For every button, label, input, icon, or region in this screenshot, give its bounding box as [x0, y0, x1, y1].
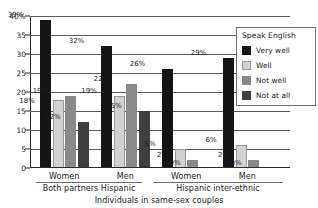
- legend-item-not-at-all[interactable]: Not at all: [242, 88, 311, 103]
- legend-label-well: Well: [256, 61, 272, 70]
- bar-value-label: 29%: [191, 49, 206, 57]
- bar-not-well[interactable]: [65, 96, 76, 168]
- group-label-left: Both partners Hispanic: [43, 184, 136, 193]
- legend-swatch-icon-not-at-all: [242, 91, 251, 100]
- bar-value-label: 39%: [8, 11, 23, 19]
- legend-swatch-icon-not-well: [242, 76, 251, 85]
- bar-value-label: 2%: [218, 151, 229, 159]
- legend: Speak English Very well Well Not well No…: [236, 27, 316, 106]
- legend-swatch-icon-very-well: [242, 46, 251, 55]
- group-rule-left: [36, 182, 142, 183]
- bar-value-label: 5%: [145, 140, 156, 148]
- legend-item-very-well[interactable]: Very well: [242, 43, 311, 58]
- bar-value-label: 6%: [206, 136, 217, 144]
- bar-well[interactable]: [53, 100, 64, 168]
- bar-value-label: 12%: [45, 113, 60, 121]
- bar-not-well[interactable]: [126, 84, 137, 168]
- group-label-right: Hispanic inter-ethnic: [176, 184, 260, 193]
- bar-group: [162, 16, 211, 168]
- x-category-label: Men: [239, 172, 256, 181]
- bar-value-label: 32%: [69, 37, 84, 45]
- legend-label-not-at-all: Not at all: [256, 91, 290, 100]
- bar-not-at-all[interactable]: [78, 122, 89, 168]
- bar-value-label: 18%: [19, 97, 34, 105]
- bar-value-label: 0%: [170, 159, 181, 167]
- legend-title: Speak English: [242, 31, 311, 40]
- bar-value-label: 19%: [33, 87, 48, 95]
- bar-value-label: 15%: [106, 102, 121, 110]
- x-category-label: Women: [171, 172, 201, 181]
- bar-chart: 40%35302520151050 WomenMenWomenMen Both …: [0, 0, 318, 208]
- legend-label-very-well: Very well: [256, 46, 290, 55]
- group-rule-right: [153, 182, 283, 183]
- bar-value-label: 26%: [130, 60, 145, 68]
- legend-item-not-well[interactable]: Not well: [242, 73, 311, 88]
- bar-value-label: 22%: [94, 75, 109, 83]
- legend-swatch-icon-well: [242, 61, 251, 70]
- bar-group: [101, 16, 150, 168]
- x-axis-title: Individuals in same-sex couples: [95, 196, 224, 205]
- legend-item-well[interactable]: Well: [242, 58, 311, 73]
- x-category-label: Women: [49, 172, 79, 181]
- bar-value-label: 0%: [231, 159, 242, 167]
- x-axis-line: [30, 167, 290, 168]
- bar-value-label: 2%: [157, 151, 168, 159]
- legend-label-not-well: Not well: [256, 76, 286, 85]
- bar-value-label: 19%: [81, 87, 96, 95]
- x-category-label: Men: [117, 172, 134, 181]
